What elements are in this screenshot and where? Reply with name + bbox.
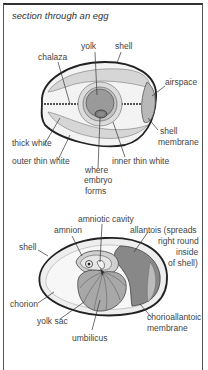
label-allantois-4: of shell)	[168, 258, 198, 268]
label-chorioallantoic-2: membrane	[147, 323, 188, 333]
label-allantois-1: allantois (spreads	[130, 225, 197, 235]
label-yolk-sac: yolk sac	[37, 316, 68, 326]
label-thick-white: thick white	[12, 138, 52, 148]
egg-section-diagram: yolk shell chalaza airspace shell membra…	[12, 41, 199, 196]
label-shell: shell	[19, 242, 37, 252]
label-shell-membrane-2: membrane	[158, 137, 199, 147]
embryo-eye-pupil	[88, 263, 91, 266]
label-allantois-3: inside	[176, 247, 198, 257]
label-chorioallantoic-1: chorioallantoic	[147, 312, 202, 322]
label-umbilicus: umbilicus	[72, 333, 107, 343]
label-inner-thin-white: inner thin white	[112, 156, 169, 166]
label-airspace: airspace	[165, 77, 197, 87]
label-chorion: chorion	[10, 299, 38, 309]
label-shell-membrane-1: shell	[160, 126, 178, 136]
label-amnion: amnion	[54, 225, 82, 235]
label-outer-thin-white: outer thin white	[12, 156, 70, 166]
label-chalaza: chalaza	[38, 52, 68, 62]
label-shell: shell	[115, 41, 133, 51]
embryo-spot-inner	[98, 112, 105, 116]
egg-diagrams: yolk shell chalaza airspace shell membra…	[0, 0, 208, 370]
label-yolk: yolk	[81, 41, 97, 51]
label-amniotic-cavity: amniotic cavity	[78, 214, 134, 224]
embryo-development-diagram: amniotic cavity amnion allantois (spread…	[10, 214, 202, 343]
label-where-embryo-1: where	[84, 165, 108, 175]
label-allantois-2: right round	[158, 236, 199, 246]
label-where-embryo-3: forms	[85, 186, 106, 196]
label-where-embryo-2: embryo	[84, 175, 113, 185]
